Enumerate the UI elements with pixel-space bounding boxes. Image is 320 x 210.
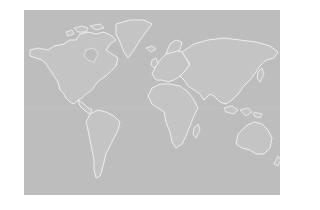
south-america	[86, 110, 120, 178]
greenland	[116, 20, 152, 58]
madagascar	[193, 124, 200, 138]
australia	[236, 122, 272, 154]
africa	[148, 84, 198, 148]
iceland	[146, 46, 156, 52]
central-america	[78, 100, 92, 114]
new-zealand	[274, 156, 280, 166]
north-america	[30, 32, 118, 104]
japan	[257, 68, 264, 82]
world-map	[24, 10, 280, 195]
world-map-svg	[24, 10, 280, 195]
